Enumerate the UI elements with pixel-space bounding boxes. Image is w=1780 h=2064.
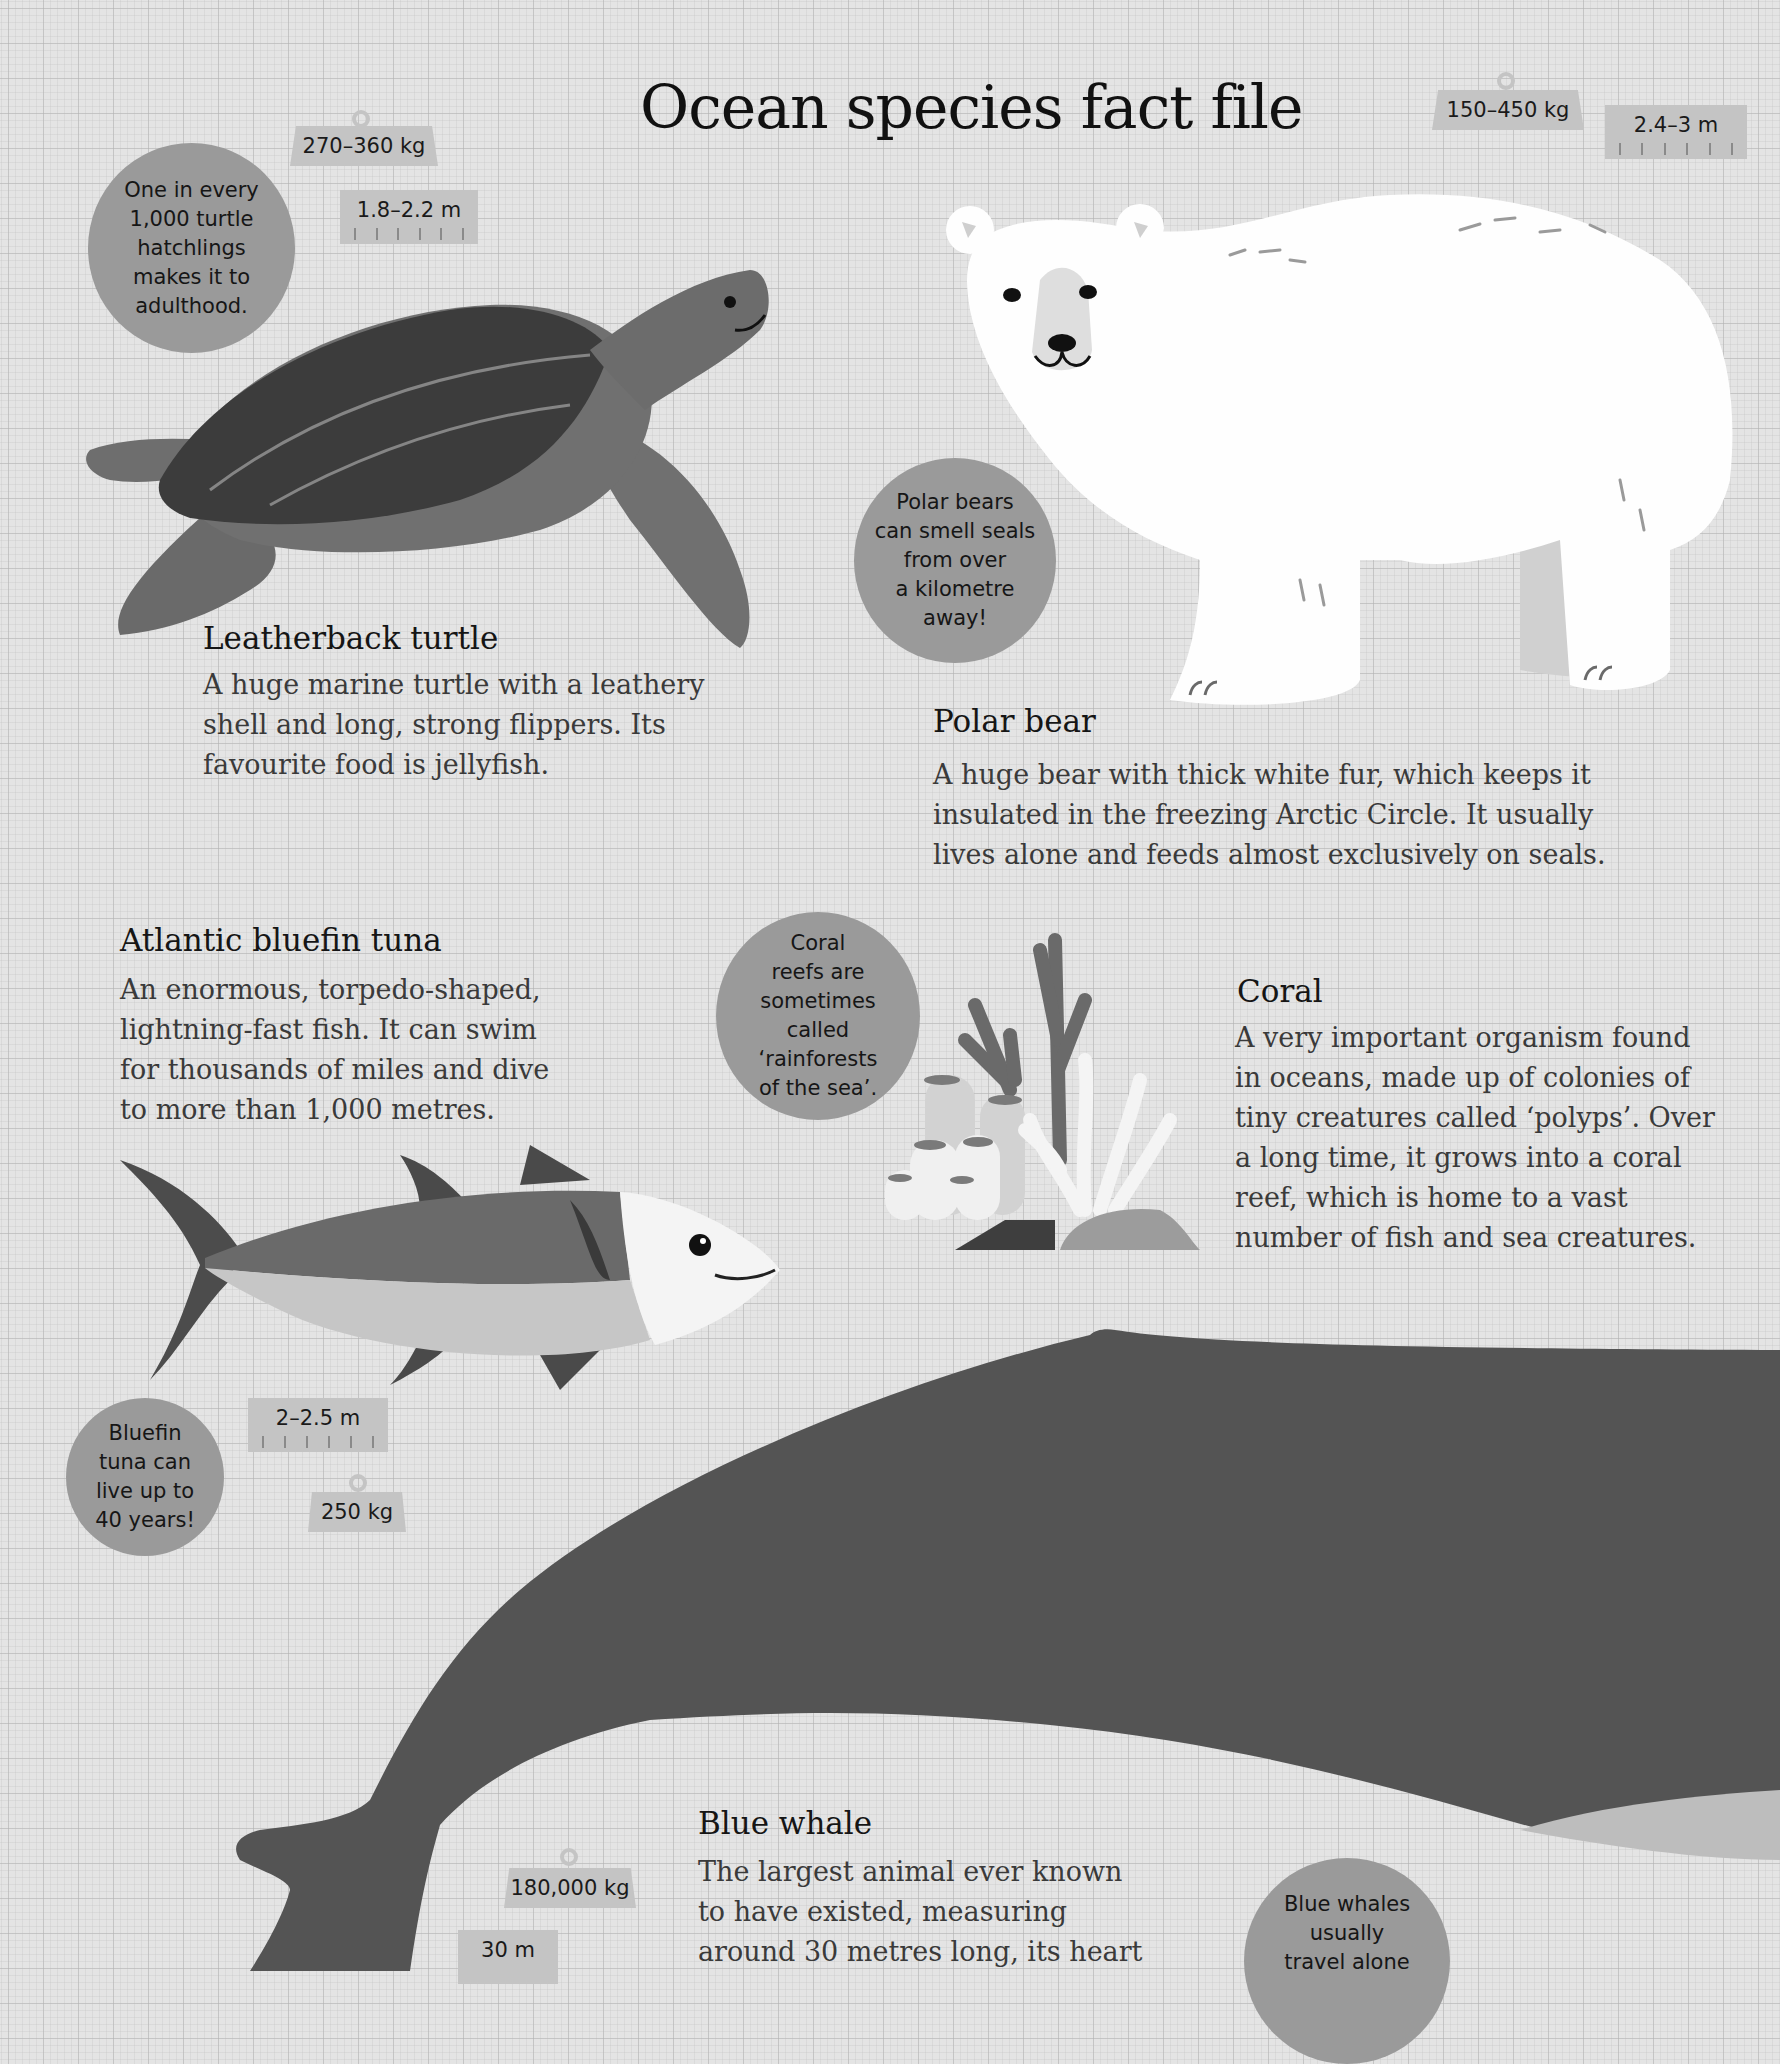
page-title: Ocean species fact file	[640, 72, 1303, 142]
weight-ring-icon	[352, 110, 370, 128]
fact-line: called	[759, 1016, 878, 1045]
polar-bear-length-ruler: 2.4–3 m	[1605, 105, 1747, 159]
fact-line: sometimes	[759, 987, 878, 1016]
length-value: 2.4–3 m	[1605, 113, 1747, 137]
fact-line: usually	[1284, 1919, 1410, 1948]
blue-whale-name: Blue whale	[698, 1805, 872, 1841]
blue-whale-weight-tag: 180,000 kg	[504, 1868, 636, 1908]
fact-line: 1,000 turtle	[124, 205, 259, 234]
fact-line: from over	[875, 546, 1036, 575]
turtle-description: A huge marine turtle with a leathery she…	[203, 665, 733, 785]
description-line: to have existed, measuring	[698, 1892, 1158, 1932]
blue-whale-description: The largest animal ever known to have ex…	[698, 1852, 1158, 1972]
ruler-ticks	[354, 228, 464, 240]
coral-description: A very important organism found in ocean…	[1235, 1018, 1715, 1258]
coral-reef-illustration	[880, 920, 1220, 1260]
polar-bear-name: Polar bear	[933, 703, 1096, 739]
tuna-description: An enormous, torpedo-shaped, lightning-f…	[120, 970, 580, 1130]
coral-name: Coral	[1237, 973, 1323, 1009]
weight-value: 270–360 kg	[303, 134, 426, 158]
length-value: 1.8–2.2 m	[340, 198, 478, 222]
fact-line: of the sea’.	[759, 1074, 878, 1103]
leatherback-turtle-illustration	[70, 270, 770, 650]
tuna-name: Atlantic bluefin tuna	[120, 922, 442, 958]
blue-whale-fact-bubble: Blue whales usually travel alone	[1244, 1858, 1450, 2064]
fact-line: reefs are	[759, 958, 878, 987]
fact-line: travel alone	[1284, 1948, 1410, 1977]
fact-line: ‘rainforests	[759, 1045, 878, 1074]
description-line: The largest animal ever known	[698, 1852, 1158, 1892]
weight-value: 180,000 kg	[510, 1876, 629, 1900]
turtle-name: Leatherback turtle	[203, 620, 498, 656]
blue-whale-length-ruler: 30 m	[458, 1930, 558, 1984]
fact-line: Polar bears	[875, 488, 1036, 517]
fact-line: away!	[875, 604, 1036, 633]
fact-line: Coral	[759, 929, 878, 958]
weight-ring-icon	[1497, 72, 1515, 90]
turtle-weight-tag: 270–360 kg	[290, 126, 438, 166]
fact-line: a kilometre	[875, 575, 1036, 604]
turtle-length-ruler: 1.8–2.2 m	[340, 190, 478, 244]
fact-line: can smell seals	[875, 517, 1036, 546]
fact-line: One in every	[124, 176, 259, 205]
polar-bear-weight-tag: 150–450 kg	[1432, 90, 1584, 130]
ruler-ticks	[1619, 143, 1733, 155]
weight-ring-icon	[560, 1848, 578, 1866]
fact-line: Blue whales	[1284, 1890, 1410, 1919]
polar-bear-fact-bubble: Polar bears can smell seals from over a …	[854, 458, 1056, 663]
polar-bear-description: A huge bear with thick white fur, which …	[933, 755, 1633, 875]
fact-line: hatchlings	[124, 234, 259, 263]
polar-bear-illustration	[940, 180, 1760, 720]
weight-value: 150–450 kg	[1447, 98, 1570, 122]
length-value: 30 m	[458, 1938, 558, 1962]
description-line: around 30 metres long, its heart	[698, 1932, 1158, 1972]
